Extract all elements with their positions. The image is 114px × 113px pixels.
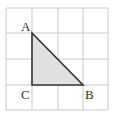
- grid-triangle-diagram: A B C: [0, 0, 114, 113]
- vertex-label-a: A: [21, 19, 31, 34]
- vertex-label-c: C: [21, 87, 30, 102]
- vertex-label-b: B: [85, 87, 94, 102]
